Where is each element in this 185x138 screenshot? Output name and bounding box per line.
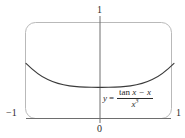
equation-annotation: y = tan x − x x3 — [103, 88, 153, 109]
x-axis-tick-label-negative-one: −1 — [6, 108, 17, 118]
x-axis-tick-label-one: 1 — [176, 108, 181, 118]
equation-numerator: tan x − x — [117, 88, 153, 98]
equation-numerator-tan: tan — [119, 87, 130, 97]
equation-left-hand-side: y — [103, 94, 107, 103]
equation-equals-sign: = — [109, 94, 114, 103]
figure-graph-tanx-minus-x-over-x-cubed: 1 0 −1 1 y = tan x − x x3 — [0, 0, 185, 138]
y-axis-tick-label-one: 1 — [97, 5, 102, 15]
equation-denominator: x3 — [129, 99, 140, 109]
equation-denominator-exponent: 3 — [135, 98, 138, 104]
equation-fraction: tan x − x x3 — [117, 88, 153, 109]
x-axis-tick-label-zero: 0 — [97, 124, 102, 134]
equation-numerator-rest: x − x — [132, 87, 151, 97]
plot-canvas — [0, 0, 185, 138]
